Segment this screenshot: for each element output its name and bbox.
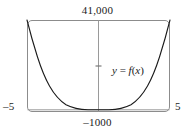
graph-figure: 41,000 y = f(x) –5 5 –1000 [0,0,195,134]
y-axis-max-label: 41,000 [0,5,195,16]
annotation-equals: = [117,64,129,76]
x-axis-min-label: –5 [3,101,14,112]
plot-canvas [27,20,170,112]
function-annotation: y = f(x) [112,64,144,77]
y-axis-min-label: –1000 [0,117,195,128]
annotation-close-paren: ) [140,64,144,76]
x-axis-max-label: 5 [175,101,181,112]
